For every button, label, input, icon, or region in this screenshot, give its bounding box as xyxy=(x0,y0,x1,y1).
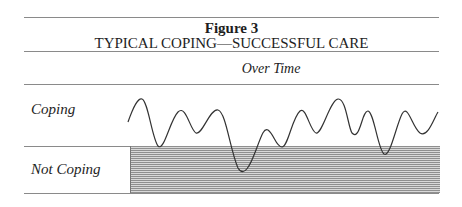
coping-wave-line xyxy=(0,0,462,207)
